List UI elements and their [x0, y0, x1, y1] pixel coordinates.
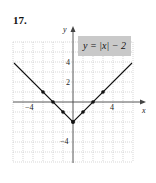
x-tick-4: 4 [110, 103, 114, 112]
graph [0, 0, 156, 183]
x-tick-neg4: −4 [25, 103, 34, 112]
x-axis-label: x [142, 106, 146, 115]
y-axis-label: y [63, 25, 67, 34]
y-tick-2: 2 [66, 78, 70, 87]
y-tick-neg4: −4 [60, 137, 69, 146]
y-tick-4: 4 [66, 58, 70, 67]
equation-label: y = |x| − 2 [78, 36, 131, 56]
